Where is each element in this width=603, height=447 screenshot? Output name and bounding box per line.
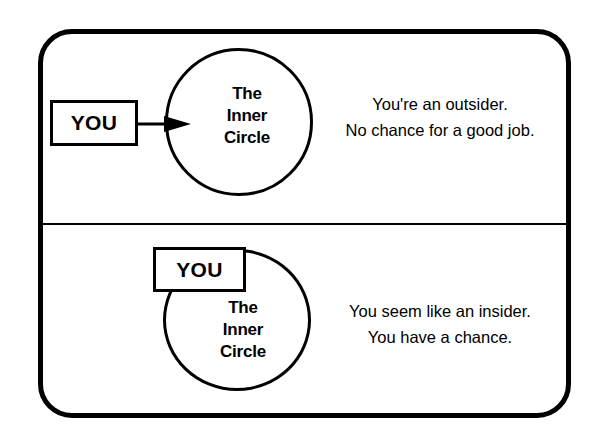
caption-line: You have a chance.: [322, 324, 558, 350]
arrow-into-circle-icon: [136, 114, 192, 134]
circle-label-line: Inner: [223, 320, 264, 339]
caption-line: You're an outsider.: [322, 91, 558, 117]
caption-line: No chance for a good job.: [322, 117, 558, 143]
circle-label-line: The: [228, 298, 258, 317]
inner-circle-label-bottom: The Inner Circle: [172, 297, 314, 363]
inner-circle-label-top: The Inner Circle: [176, 83, 318, 149]
circle-label-line: Circle: [220, 342, 266, 361]
you-box-label: YOU: [176, 258, 223, 282]
you-box-insider: YOU: [153, 247, 246, 292]
circle-label-line: The: [232, 84, 262, 103]
diagram-root: The Inner Circle YOU You're an outsider.…: [0, 0, 603, 447]
circle-label-line: Inner: [227, 106, 268, 125]
you-box-outsider: YOU: [50, 100, 138, 146]
you-box-label: YOU: [71, 111, 118, 135]
circle-label-line: Circle: [224, 128, 270, 147]
caption-line: You seem like an insider.: [322, 298, 558, 324]
caption-outsider: You're an outsider. No chance for a good…: [322, 91, 558, 143]
caption-insider: You seem like an insider. You have a cha…: [322, 298, 558, 350]
